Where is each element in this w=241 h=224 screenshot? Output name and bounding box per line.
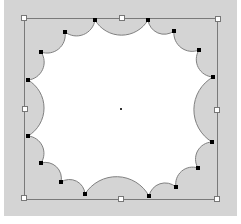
vertex-handle[interactable] — [59, 180, 63, 184]
resize-handle-top-right[interactable] — [216, 17, 221, 22]
resize-handle-bottom-left[interactable] — [22, 196, 27, 201]
resize-handle-middle-left[interactable] — [23, 107, 28, 112]
vertex-handle[interactable] — [26, 78, 30, 82]
vertex-handle[interactable] — [197, 48, 201, 52]
vertex-handle[interactable] — [39, 161, 43, 165]
vertex-handle[interactable] — [196, 166, 200, 170]
vertex-handle[interactable] — [39, 50, 43, 54]
resize-handle-bottom-right[interactable] — [215, 197, 220, 202]
resize-handle-top-center[interactable] — [120, 16, 125, 21]
vertex-handle[interactable] — [63, 30, 67, 34]
vertex-handle[interactable] — [172, 29, 176, 33]
vertex-handle[interactable] — [93, 18, 97, 22]
vertex-handle[interactable] — [147, 194, 151, 198]
resize-handle-top-left[interactable] — [22, 16, 27, 21]
vertex-handle[interactable] — [174, 185, 178, 189]
vertex-handle[interactable] — [211, 75, 215, 79]
resize-handle-bottom-center[interactable] — [119, 197, 124, 202]
vertex-handle[interactable] — [26, 134, 30, 138]
resize-handle-middle-right[interactable] — [215, 108, 220, 113]
vertex-handle[interactable] — [146, 18, 150, 22]
center-point-marker[interactable] — [120, 108, 122, 110]
vertex-handle[interactable] — [83, 192, 87, 196]
vertex-handle[interactable] — [210, 140, 214, 144]
drawing-canvas[interactable] — [0, 0, 241, 224]
